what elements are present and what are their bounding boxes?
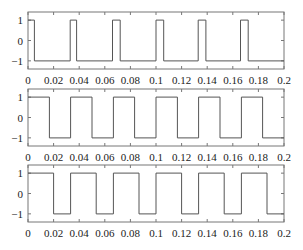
x-tick-label: 0.18: [249, 227, 269, 239]
y-tick-label: 0: [18, 188, 24, 200]
x-tick-label: 0.14: [198, 227, 218, 239]
x-tick-label: 0.2: [277, 151, 291, 163]
square-wave-figure: 00.020.040.060.080.10.120.140.160.180.21…: [0, 0, 303, 250]
x-tick-label: 0.12: [172, 151, 191, 163]
square-wave-line: [28, 173, 284, 214]
x-tick-label: 0.06: [95, 227, 115, 239]
y-tick-label: 0: [18, 35, 24, 47]
y-tick-label: 1: [18, 14, 24, 26]
x-tick-label: 0.1: [149, 151, 163, 163]
x-tick-label: 0: [25, 74, 31, 86]
x-tick-label: 0.08: [121, 151, 141, 163]
x-tick-label: 0.1: [149, 227, 163, 239]
x-tick-label: 0.18: [249, 151, 269, 163]
x-tick-label: 0.12: [172, 74, 191, 86]
x-tick-label: 0.16: [223, 151, 243, 163]
x-tick-label: 0.1: [149, 74, 163, 86]
x-tick-label: 0.08: [121, 227, 141, 239]
x-tick-label: 0.04: [70, 227, 90, 239]
subplot-3: 00.020.040.060.080.10.120.140.160.180.21…: [11, 165, 291, 239]
x-tick-label: 0.02: [44, 74, 63, 86]
x-tick-label: 0.08: [121, 74, 141, 86]
x-tick-label: 0.16: [223, 227, 243, 239]
x-tick-label: 0.04: [70, 74, 90, 86]
x-tick-label: 0: [25, 227, 31, 239]
y-tick-label: −1: [11, 55, 23, 67]
x-tick-label: 0.06: [95, 74, 115, 86]
subplot-1: 00.020.040.060.080.10.120.140.160.180.21…: [11, 12, 291, 86]
subplot-2: 00.020.040.060.080.10.120.140.160.180.21…: [11, 89, 291, 163]
y-tick-label: −1: [11, 208, 23, 220]
x-tick-label: 0.12: [172, 227, 191, 239]
x-tick-label: 0.16: [223, 74, 243, 86]
x-tick-label: 0: [25, 151, 31, 163]
x-tick-label: 0.14: [198, 74, 218, 86]
x-tick-label: 0.02: [44, 151, 63, 163]
square-wave-line: [28, 20, 284, 61]
square-wave-line: [28, 97, 284, 138]
x-tick-label: 0.04: [70, 151, 90, 163]
y-tick-label: 1: [18, 167, 24, 179]
x-tick-label: 0.2: [277, 227, 291, 239]
x-tick-label: 0.14: [198, 151, 218, 163]
x-tick-label: 0.06: [95, 151, 115, 163]
y-tick-label: 1: [18, 91, 24, 103]
x-tick-label: 0.02: [44, 227, 63, 239]
x-tick-label: 0.2: [277, 74, 291, 86]
x-tick-label: 0.18: [249, 74, 269, 86]
y-tick-label: 0: [18, 112, 24, 124]
y-tick-label: −1: [11, 132, 23, 144]
